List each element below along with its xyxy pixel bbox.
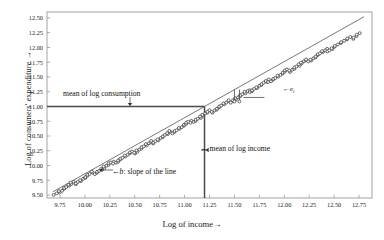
annotation-residual: ←ei <box>283 85 295 94</box>
y-tick-label: 9.50 <box>17 191 43 198</box>
data-point <box>112 162 115 165</box>
data-point <box>123 154 126 157</box>
data-point <box>210 110 213 113</box>
data-point <box>358 32 361 35</box>
data-point <box>343 39 346 42</box>
consumption-arrow-head <box>128 103 132 106</box>
data-point <box>321 50 324 53</box>
data-point <box>189 121 192 124</box>
data-point <box>243 90 246 93</box>
x-tick-label: 10.00 <box>71 201 99 208</box>
annotation-residual-subscript: i <box>293 89 294 94</box>
annotation-slope-suffix: : slope of the line <box>123 167 176 176</box>
y-tick-label: 11.75 <box>17 59 43 66</box>
x-tick-label: 11.00 <box>171 201 199 208</box>
residual-point-2 <box>238 100 241 103</box>
data-point <box>267 81 270 84</box>
data-point <box>333 44 336 47</box>
y-tick-label: 11.50 <box>17 73 43 80</box>
y-tick-label: 12.25 <box>17 29 43 36</box>
x-tick-label: 10.25 <box>96 201 124 208</box>
data-point <box>309 58 312 61</box>
data-point <box>346 37 349 40</box>
data-point <box>102 165 105 168</box>
x-tick-label: 12.00 <box>270 201 298 208</box>
regression-line <box>53 17 364 192</box>
data-point <box>90 170 93 173</box>
y-tick-label: 11.25 <box>17 88 43 95</box>
y-tick-label: 10.25 <box>17 147 43 154</box>
data-point <box>255 86 258 89</box>
y-tick-label: 10.50 <box>17 132 43 139</box>
data-point <box>222 102 225 105</box>
y-tick-label: 12.50 <box>17 14 43 21</box>
data-point <box>299 61 302 64</box>
x-tick-label: 10.75 <box>146 201 174 208</box>
annotation-slope-arrow: ← <box>112 167 120 176</box>
annotation-mean-consumption: mean of log consumption <box>63 89 140 98</box>
data-point <box>349 36 352 39</box>
data-point <box>201 113 204 116</box>
data-point <box>57 190 60 193</box>
data-point <box>177 127 180 130</box>
chart-figure: Log of consumers' expenditure → Log of i… <box>0 0 384 240</box>
x-tick-label: 9.75 <box>46 201 74 208</box>
y-tick-label: 10.00 <box>17 162 43 169</box>
data-point <box>355 33 358 36</box>
x-tick-label: 12.75 <box>345 201 373 208</box>
y-tick-label: 11.00 <box>17 103 43 110</box>
data-point <box>144 143 147 146</box>
data-point <box>69 181 72 184</box>
x-tick-label: 12.25 <box>295 201 323 208</box>
data-point <box>336 43 339 46</box>
data-point <box>276 74 279 77</box>
data-point <box>135 149 138 152</box>
x-tick-label: 11.25 <box>196 201 224 208</box>
data-point <box>168 129 171 132</box>
data-point <box>340 41 343 44</box>
x-tick-label: 12.50 <box>320 201 348 208</box>
scatter-series <box>52 32 361 197</box>
x-axis-label: Log of income→ <box>0 219 384 229</box>
annotation-slope: ←b: slope of the line <box>112 167 176 176</box>
data-point <box>330 47 333 50</box>
residual-point <box>233 100 236 103</box>
x-tick-label: 10.50 <box>121 201 149 208</box>
annotation-residual-arrow: ← <box>283 85 290 93</box>
data-point <box>288 69 291 72</box>
data-point <box>52 193 55 196</box>
y-tick-label: 12.00 <box>17 44 43 51</box>
x-tick-label: 11.50 <box>220 201 248 208</box>
data-point <box>79 179 82 182</box>
data-point <box>156 138 159 141</box>
y-tick-label: 10.75 <box>17 118 43 125</box>
x-tick-label: 11.75 <box>245 201 273 208</box>
data-point <box>352 36 355 39</box>
annotation-mean-income: ← mean of log income <box>200 144 270 153</box>
y-tick-label: 9.75 <box>17 177 43 184</box>
